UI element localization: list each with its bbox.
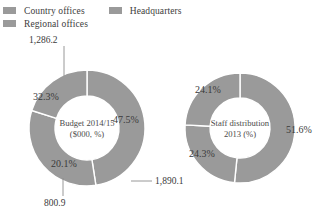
percent-label-516: 51.6% bbox=[286, 124, 312, 135]
donut-center-subtitle-staff: 2013 (%) bbox=[224, 129, 256, 139]
donut-center-title-staff: Staff distribution bbox=[211, 118, 270, 128]
value-label-1286: 1,286.2 bbox=[29, 35, 58, 45]
percent-label-201: 20.1% bbox=[51, 158, 77, 169]
donut-charts-svg: 1,286.2 1,890.1 800.9 47.5% 32.3% 20.1% … bbox=[0, 0, 316, 216]
value-label-800: 800.9 bbox=[44, 198, 66, 208]
percent-label-475: 47.5% bbox=[113, 114, 139, 125]
percent-label-241: 24.1% bbox=[195, 84, 221, 95]
donut-center-title-budget: Budget 2014/15 bbox=[59, 118, 114, 128]
percent-label-243: 24.3% bbox=[189, 148, 215, 159]
charts-container: 1,286.2 1,890.1 800.9 47.5% 32.3% 20.1% … bbox=[0, 0, 316, 216]
donut-chart-staff: 51.6% 24.3% 24.1% Staff distribution 201… bbox=[185, 73, 312, 183]
value-label-1890: 1,890.1 bbox=[155, 176, 184, 186]
donut-center-subtitle-budget: ($000, %) bbox=[70, 129, 105, 139]
donut-chart-budget: 1,286.2 1,890.1 800.9 47.5% 32.3% 20.1% … bbox=[29, 35, 184, 208]
percent-label-323: 32.3% bbox=[33, 91, 59, 102]
donut-wedges-budget[interactable] bbox=[29, 70, 145, 186]
